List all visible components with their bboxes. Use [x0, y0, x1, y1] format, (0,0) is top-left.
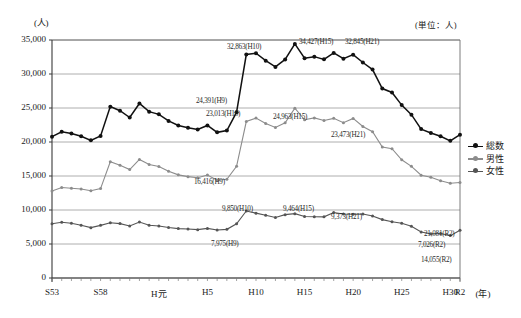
- point-女性-28: [323, 215, 326, 218]
- point-総数-25: [293, 42, 297, 46]
- point-女性-11: [157, 224, 160, 227]
- point-男性-34: [381, 145, 384, 148]
- point-男性-35: [391, 147, 394, 150]
- legend-swatch-icon: [468, 142, 483, 151]
- legend-swatch-icon: [468, 167, 483, 176]
- point-男性-38: [420, 174, 423, 177]
- point-男性-28: [323, 119, 326, 122]
- point-男性-27: [313, 116, 316, 119]
- point-男性-29: [332, 117, 335, 120]
- point-男性-42: [459, 181, 462, 184]
- legend-label: 総数: [486, 140, 504, 153]
- point-男性-0: [51, 189, 54, 192]
- point-男性-16: [206, 174, 209, 177]
- point-女性-21: [255, 212, 258, 215]
- annotation-11: 9,464(H15): [283, 205, 314, 213]
- point-総数-14: [186, 126, 190, 130]
- series-総数: [50, 42, 462, 143]
- point-男性-8: [128, 168, 131, 171]
- series-女性: [51, 210, 462, 238]
- point-女性-18: [225, 228, 228, 231]
- point-総数-4: [89, 138, 93, 142]
- point-男性-37: [410, 165, 413, 168]
- point-総数-13: [176, 123, 180, 127]
- point-総数-41: [448, 139, 452, 143]
- point-女性-13: [177, 227, 180, 230]
- point-総数-0: [50, 135, 54, 139]
- annotation-4: 21,081(R2): [424, 230, 454, 238]
- point-女性-34: [381, 218, 384, 221]
- point-女性-16: [206, 227, 209, 230]
- legend-item-男性: 男性: [468, 153, 504, 166]
- point-総数-3: [79, 134, 83, 138]
- point-女性-9: [138, 220, 141, 223]
- point-男性-22: [264, 122, 267, 125]
- point-女性-12: [167, 226, 170, 229]
- point-男性-9: [138, 158, 141, 161]
- point-総数-24: [283, 57, 287, 61]
- point-女性-27: [313, 215, 316, 218]
- point-男性-12: [167, 170, 170, 173]
- point-男性-33: [371, 130, 374, 133]
- point-男性-18: [225, 178, 228, 181]
- point-総数-5: [99, 134, 103, 138]
- point-男性-25: [293, 107, 296, 110]
- point-総数-15: [196, 127, 200, 131]
- annotation-5: 23,013(H10): [206, 110, 240, 118]
- chart-legend: 総数男性女性: [468, 140, 504, 178]
- point-女性-5: [99, 224, 102, 227]
- point-女性-38: [420, 230, 423, 233]
- point-総数-32: [361, 61, 365, 65]
- series-男性: [51, 107, 462, 193]
- point-総数-2: [69, 132, 73, 136]
- legend-item-女性: 女性: [468, 165, 504, 178]
- point-総数-30: [341, 57, 345, 61]
- point-女性-4: [89, 226, 92, 229]
- point-女性-7: [119, 222, 122, 225]
- point-女性-33: [371, 214, 374, 217]
- legend-swatch-icon: [468, 154, 483, 163]
- point-総数-39: [429, 131, 433, 135]
- point-男性-4: [89, 189, 92, 192]
- point-男性-2: [70, 187, 73, 190]
- point-総数-21: [254, 51, 258, 55]
- point-総数-6: [108, 105, 112, 109]
- annotation-13: 7,975(H9): [211, 240, 239, 248]
- point-女性-15: [196, 228, 199, 231]
- series-line-男性: [52, 108, 460, 191]
- point-女性-23: [274, 216, 277, 219]
- annotation-3: 24,391(H9): [196, 97, 227, 105]
- point-総数-18: [225, 129, 229, 133]
- point-総数-27: [312, 55, 316, 59]
- point-総数-9: [137, 101, 141, 105]
- point-男性-19: [235, 165, 238, 168]
- point-女性-1: [60, 221, 63, 224]
- point-女性-2: [70, 222, 73, 225]
- point-男性-14: [187, 175, 190, 178]
- point-女性-0: [51, 222, 54, 225]
- point-女性-14: [187, 228, 190, 231]
- annotation-9: 14,055(R2): [421, 256, 451, 264]
- point-総数-33: [371, 68, 375, 72]
- point-男性-6: [109, 160, 112, 163]
- legend-label: 男性: [486, 153, 504, 166]
- point-総数-7: [118, 109, 122, 113]
- point-総数-1: [60, 130, 64, 134]
- annotation-1: 34,427(H15): [299, 38, 333, 46]
- annotation-14: 7,026(R2): [418, 241, 445, 249]
- annotation-6: 24,963(H15): [273, 113, 307, 121]
- point-総数-26: [303, 56, 307, 60]
- point-女性-26: [303, 215, 306, 218]
- line-chart: (人) (単位：人) 35,00030,00025,00020,00015,00…: [0, 0, 521, 318]
- point-女性-22: [264, 214, 267, 217]
- point-男性-7: [119, 164, 122, 167]
- point-女性-42: [459, 229, 462, 232]
- point-男性-23: [274, 126, 277, 129]
- point-総数-20: [244, 53, 248, 57]
- point-総数-16: [205, 123, 209, 127]
- annotation-12: 9,373(H21): [331, 213, 362, 221]
- point-女性-35: [391, 220, 394, 223]
- point-男性-24: [284, 121, 287, 124]
- point-女性-17: [216, 229, 219, 232]
- point-総数-28: [322, 57, 326, 61]
